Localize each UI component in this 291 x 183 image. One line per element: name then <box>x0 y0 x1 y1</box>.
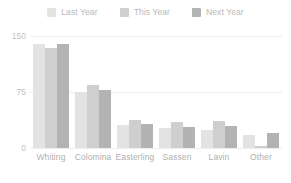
bar-chart: Last YearThis YearNext Year 075150 Whiti… <box>0 0 291 183</box>
legend-swatch-icon <box>120 8 129 17</box>
x-axis-label: Easterling <box>114 152 156 162</box>
legend-swatch-icon <box>47 8 56 17</box>
bar[interactable] <box>201 130 213 148</box>
bar[interactable] <box>213 121 225 148</box>
bar[interactable] <box>183 127 195 148</box>
x-axis-labels: WhitingColominaEasterlingSassenLavinOthe… <box>30 152 282 162</box>
bar[interactable] <box>225 126 237 148</box>
bar-groups <box>30 36 282 148</box>
legend-label: This Year <box>134 7 170 17</box>
legend-label: Last Year <box>61 7 97 17</box>
bar[interactable] <box>75 92 87 148</box>
bar-group <box>114 36 156 148</box>
legend-item[interactable]: Next Year <box>192 7 244 17</box>
bar-group <box>72 36 114 148</box>
bar[interactable] <box>141 124 153 148</box>
bar[interactable] <box>99 90 111 148</box>
gridline <box>30 148 282 149</box>
bar[interactable] <box>159 128 171 148</box>
legend-item[interactable]: This Year <box>120 7 170 17</box>
x-axis-label: Sassen <box>156 152 198 162</box>
x-axis-label: Whiting <box>30 152 72 162</box>
y-axis-tick-label: 150 <box>0 31 26 41</box>
bar[interactable] <box>171 122 183 148</box>
bar-group <box>240 36 282 148</box>
bar[interactable] <box>129 120 141 148</box>
bar[interactable] <box>33 44 45 148</box>
chart-legend: Last YearThis YearNext Year <box>0 0 291 24</box>
y-axis-tick-label: 75 <box>0 87 26 97</box>
bar[interactable] <box>117 125 129 148</box>
legend-item[interactable]: Last Year <box>47 7 97 17</box>
bar[interactable] <box>243 135 255 148</box>
x-axis-label: Other <box>240 152 282 162</box>
bar[interactable] <box>45 48 57 148</box>
legend-label: Next Year <box>206 7 244 17</box>
legend-swatch-icon <box>192 8 201 17</box>
y-axis-tick-label: 0 <box>0 143 26 153</box>
bar[interactable] <box>267 133 279 148</box>
bar[interactable] <box>255 146 267 148</box>
x-axis-label: Colomina <box>72 152 114 162</box>
bar[interactable] <box>87 85 99 148</box>
bar-group <box>30 36 72 148</box>
plot-area <box>30 36 282 148</box>
bar-group <box>156 36 198 148</box>
bar[interactable] <box>57 44 69 148</box>
bar-group <box>198 36 240 148</box>
x-axis-label: Lavin <box>198 152 240 162</box>
